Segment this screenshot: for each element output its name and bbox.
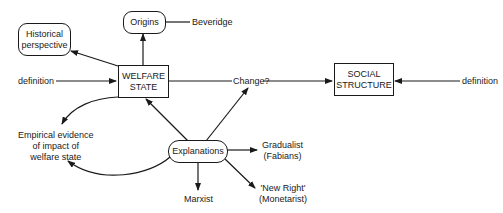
definition-left-label: definition: [18, 76, 54, 87]
explanations-node: Explanations: [168, 140, 228, 163]
connector-lines: [0, 0, 503, 213]
change-label: Change?: [233, 76, 270, 87]
social-structure-node: SOCIAL STRUCTURE: [334, 63, 394, 96]
welfare-state-node: WELFARE STATE: [118, 65, 169, 98]
gradualist-label: Gradualist (Fabians): [262, 140, 303, 162]
beveridge-label: Beveridge: [192, 17, 233, 28]
definition-right-label: definition: [462, 76, 498, 87]
origins-node: Origins: [123, 11, 166, 34]
empirical-evidence-label: Empirical evidence of impact of welfare …: [18, 130, 94, 163]
marxist-label: Marxist: [184, 194, 213, 205]
new-right-label: 'New Right' (Monetarist): [259, 183, 307, 205]
historical-perspective-node: Historical perspective: [18, 23, 71, 56]
